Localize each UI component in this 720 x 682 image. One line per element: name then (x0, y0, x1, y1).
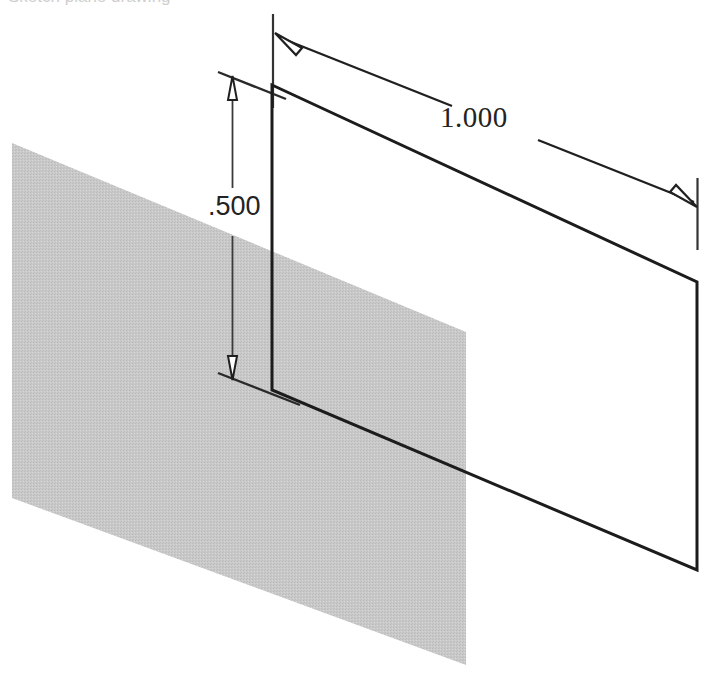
length-dimension-label[interactable]: 1.000 (440, 101, 508, 134)
cad-drawing-svg (0, 0, 720, 682)
dimension-line-length-left (281, 38, 452, 106)
drawing-canvas-area: Sketch plane drawing (0, 0, 720, 682)
arrowhead-length-right (670, 185, 697, 207)
height-dimension-label[interactable]: .500 (208, 191, 261, 222)
